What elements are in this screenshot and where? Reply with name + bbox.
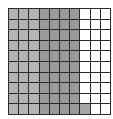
hundred-grid (8, 8, 111, 115)
grid-cell-empty (91, 41, 100, 51)
grid-cell-empty (80, 20, 89, 30)
grid-cell-dark (40, 73, 49, 83)
grid-cell-dark (60, 104, 69, 114)
grid-cell-dark (50, 94, 59, 104)
grid-cell-light (9, 30, 18, 40)
grid-cell-dark (70, 73, 79, 83)
grid-cell-empty (101, 94, 110, 104)
grid-cell-dark (50, 41, 59, 51)
grid-cell-light (9, 94, 18, 104)
grid-cell-empty (91, 83, 100, 93)
grid-cell-light (9, 104, 18, 114)
grid-cell-light (9, 83, 18, 93)
grid-cell-empty (91, 62, 100, 72)
grid-cell-dark (60, 41, 69, 51)
grid-cell-dark (40, 9, 49, 19)
grid-cell-light (19, 83, 28, 93)
grid-cell-empty (80, 94, 89, 104)
grid-cell-dark (50, 20, 59, 30)
grid-cell-empty (80, 30, 89, 40)
grid-cell-light (29, 41, 38, 51)
grid-cell-dark (60, 83, 69, 93)
grid-cell-light (29, 51, 38, 61)
grid-cell-dark (50, 104, 59, 114)
grid-cell-light (29, 62, 38, 72)
grid-cell-light (9, 9, 18, 19)
grid-cell-empty (91, 9, 100, 19)
grid-cell-empty (101, 83, 110, 93)
grid-cell-empty (101, 73, 110, 83)
grid-cell-dark (60, 20, 69, 30)
grid-cell-light (19, 73, 28, 83)
grid-cell-light (29, 104, 38, 114)
grid-cell-empty (91, 20, 100, 30)
grid-cell-empty (80, 83, 89, 93)
grid-cell-light (29, 94, 38, 104)
grid-cell-light (19, 41, 28, 51)
grid-cell-light (29, 9, 38, 19)
grid-cell-empty (91, 73, 100, 83)
grid-cell-light (19, 9, 28, 19)
grid-cell-dark (60, 51, 69, 61)
grid-cell-light (19, 62, 28, 72)
grid-cell-dark (70, 104, 79, 114)
grid-cell-dark (50, 51, 59, 61)
grid-cell-dark (40, 41, 49, 51)
grid-cell-empty (80, 73, 89, 83)
grid-cell-empty (91, 104, 100, 114)
grid-cell-dark (50, 30, 59, 40)
grid-cell-empty (101, 62, 110, 72)
grid-cell-light (9, 62, 18, 72)
grid-cell-light (9, 51, 18, 61)
grid-cell-light (29, 73, 38, 83)
grid-cell-dark (40, 104, 49, 114)
grid-cell-dark (40, 30, 49, 40)
grid-cell-light (19, 51, 28, 61)
grid-cell-empty (80, 9, 89, 19)
grid-cell-light (9, 73, 18, 83)
grid-cell-empty (101, 104, 110, 114)
grid-cell-dark (60, 9, 69, 19)
grid-cell-empty (91, 51, 100, 61)
grid-cell-dark (70, 83, 79, 93)
grid-cell-dark (70, 41, 79, 51)
grid-cell-dark (60, 30, 69, 40)
grid-cell-dark (60, 73, 69, 83)
grid-cell-dark (50, 62, 59, 72)
grid-cell-empty (80, 51, 89, 61)
grid-cell-dark (40, 51, 49, 61)
grid-cell-dark (40, 83, 49, 93)
grid-cell-dark (70, 30, 79, 40)
grid-cell-empty (101, 51, 110, 61)
grid-cell-light (19, 20, 28, 30)
grid-cell-dark (60, 94, 69, 104)
grid-cell-light (29, 83, 38, 93)
grid-cell-empty (101, 20, 110, 30)
grid-cell-light (9, 20, 18, 30)
grid-cell-light (29, 30, 38, 40)
grid-cell-dark (70, 94, 79, 104)
grid-cell-dark (40, 62, 49, 72)
grid-cell-dark (70, 51, 79, 61)
grid-cell-light (19, 94, 28, 104)
grid-cell-light (19, 104, 28, 114)
grid-cell-light (9, 41, 18, 51)
grid-cell-dark (60, 62, 69, 72)
grid-cell-dark (70, 9, 79, 19)
grid-cell-empty (80, 41, 89, 51)
grid-cell-dark (50, 9, 59, 19)
grid-cell-empty (101, 30, 110, 40)
grid-cell-empty (101, 41, 110, 51)
grid-cell-dark (70, 62, 79, 72)
grid-cell-empty (91, 94, 100, 104)
grid-cell-light (19, 30, 28, 40)
grid-cell-empty (101, 9, 110, 19)
grid-cell-empty (80, 62, 89, 72)
grid-cell-light (29, 20, 38, 30)
grid-cell-dark (70, 20, 79, 30)
grid-cell-empty (91, 30, 100, 40)
grid-cell-mid (80, 104, 89, 114)
grid-cell-dark (40, 20, 49, 30)
grid-cell-dark (50, 73, 59, 83)
grid-cell-dark (40, 94, 49, 104)
